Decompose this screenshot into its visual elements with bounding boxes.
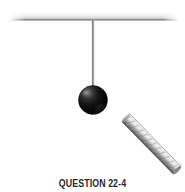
pendulum-bob (78, 85, 108, 114)
figure-caption: QUESTION 22-4 (15, 177, 170, 190)
figure-illustration (0, 0, 185, 192)
physics-question-figure: QUESTION 22-4 (0, 0, 185, 192)
pendulum-string (92, 19, 95, 89)
